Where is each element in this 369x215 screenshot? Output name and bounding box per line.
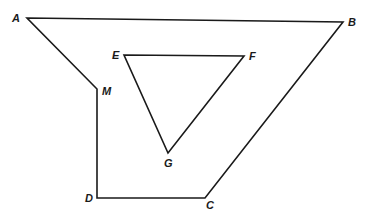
vertex-label-c: C: [206, 199, 215, 211]
vertex-label-a: A: [11, 12, 20, 24]
vertex-label-b: B: [348, 16, 356, 28]
vertex-label-m: M: [102, 85, 112, 97]
vertex-labels: ABCDMEFG: [11, 12, 356, 211]
outer-polygon-ABCDM: [27, 18, 343, 198]
vertex-label-g: G: [164, 157, 173, 169]
geometry-diagram: ABCDMEFG: [0, 0, 369, 215]
inner-triangle-EFG: [124, 55, 244, 153]
vertex-label-e: E: [112, 49, 120, 61]
vertex-label-d: D: [85, 192, 93, 204]
vertex-label-f: F: [249, 50, 256, 62]
